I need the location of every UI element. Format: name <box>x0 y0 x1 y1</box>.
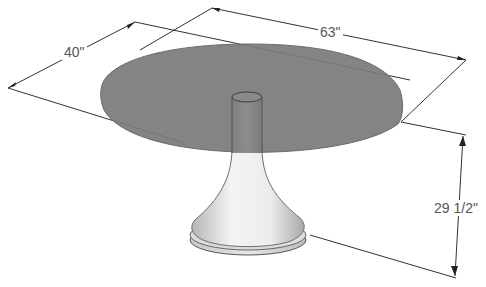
width-dimension-label: 40" <box>62 44 87 60</box>
table-diagram: 40" 63" 29 1/2" <box>0 0 486 287</box>
arrow-length-right-icon <box>457 56 466 60</box>
extension-line-right <box>401 60 466 122</box>
extension-line-top-left <box>140 8 212 50</box>
height-dimension-label: 29 1/2" <box>432 200 480 216</box>
length-dimension-label: 63" <box>318 24 343 40</box>
pedestal-body <box>192 148 304 247</box>
arrow-height-top-icon <box>459 136 466 146</box>
arrow-width-top-icon <box>127 22 135 29</box>
arrow-length-left-icon <box>212 8 220 12</box>
height-extension-top <box>401 122 466 135</box>
arrow-height-bottom-icon <box>451 266 458 276</box>
height-extension-bottom <box>310 235 456 278</box>
pedestal-column <box>232 92 262 153</box>
